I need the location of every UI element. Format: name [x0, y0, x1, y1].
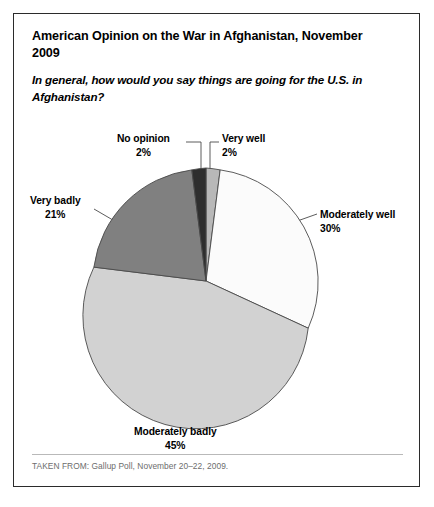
- pie-slice-very-badly: [94, 170, 206, 281]
- pie-label-moderately-badly-name: Moderately badly: [134, 426, 217, 437]
- figure-frame: American Opinion on the War in Afghanist…: [13, 13, 420, 487]
- pie-label-no-opinion: No opinion 2%: [117, 132, 170, 159]
- pie-label-moderately-well-value: 30%: [320, 222, 395, 236]
- pie-slices: [83, 168, 318, 429]
- pie-chart-svg: [14, 14, 421, 488]
- pie-label-moderately-badly-value: 45%: [134, 439, 217, 453]
- pie-label-very-well: Very well 2%: [222, 132, 265, 159]
- pie-label-very-badly-value: 21%: [30, 208, 81, 222]
- pie-label-moderately-well-name: Moderately well: [320, 209, 395, 220]
- pie-chart: No opinion 2% Very well 2% Moderately we…: [14, 14, 421, 488]
- pie-label-very-well-value: 2%: [222, 146, 265, 160]
- pie-label-moderately-well: Moderately well 30%: [320, 208, 395, 235]
- source-note: TAKEN FROM: Gallup Poll, November 20–22,…: [32, 461, 228, 471]
- pie-label-very-well-name: Very well: [222, 133, 265, 144]
- pie-label-moderately-badly: Moderately badly 45%: [134, 425, 217, 452]
- pie-label-no-opinion-name: No opinion: [117, 133, 170, 144]
- pie-label-no-opinion-value: 2%: [117, 146, 170, 160]
- footer-divider: [32, 454, 403, 455]
- pie-label-very-badly-name: Very badly: [30, 195, 81, 206]
- pie-label-very-badly: Very badly 21%: [30, 194, 81, 221]
